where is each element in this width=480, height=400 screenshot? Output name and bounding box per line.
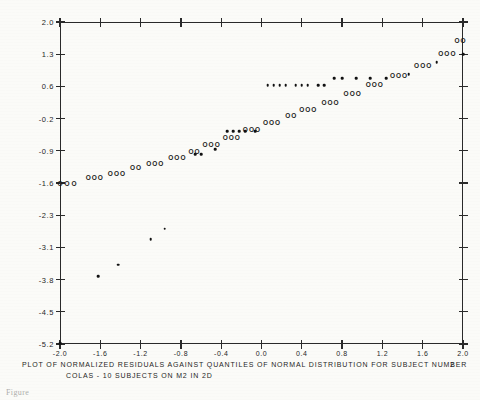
data-point-filled-dot	[97, 275, 100, 278]
y-axis-tick	[56, 311, 65, 312]
y-axis-tick	[56, 118, 65, 119]
data-point-open-circle: O	[444, 51, 449, 58]
x-axis-tick	[382, 340, 383, 349]
data-point-open-circle: O	[130, 165, 135, 172]
data-point-open-circle: O	[72, 181, 77, 188]
data-point-open-circle: O	[414, 62, 419, 69]
data-point-open-circle: O	[334, 99, 339, 106]
data-point-open-circle: O	[229, 135, 234, 142]
y-axis-tick-label: 2.0	[16, 18, 54, 27]
data-point-filled-dot	[272, 84, 275, 87]
data-point-open-circle: O	[378, 82, 383, 89]
figure-caption-subject-number: 2	[450, 361, 454, 368]
data-point-open-circle: O	[327, 99, 332, 106]
y-axis-tick-right	[459, 86, 468, 87]
data-point-open-circle: O	[57, 181, 62, 188]
x-axis-tick	[140, 340, 141, 349]
x-axis-tick-top	[382, 18, 383, 27]
data-point-filled-dot	[117, 264, 120, 267]
x-axis-tick	[301, 340, 302, 349]
data-point-open-circle: O	[426, 62, 431, 69]
data-point-open-circle: O	[311, 106, 316, 113]
scanned-page-background: -2.0-1.6-1.2-0.8-0.40.00.40.81.21.62.0 2…	[0, 0, 480, 400]
y-axis-tick	[56, 21, 65, 22]
data-point-filled-dot	[278, 84, 281, 87]
x-axis-tick-label: 0.4	[296, 350, 308, 357]
data-point-filled-dot	[59, 342, 62, 345]
y-axis-tick-right	[459, 311, 468, 312]
y-axis-tick-label: 0.6	[16, 82, 54, 91]
data-point-open-circle: O	[203, 142, 208, 149]
y-axis-tick-right	[459, 150, 468, 151]
y-axis-tick-label: -0.2	[16, 114, 54, 123]
data-point-open-circle: O	[168, 154, 173, 161]
data-point-open-circle: O	[299, 106, 304, 113]
data-point-filled-dot	[355, 77, 358, 80]
data-point-open-circle: O	[249, 127, 254, 134]
y-axis-tick	[56, 54, 65, 55]
data-point-open-circle: O	[98, 175, 103, 182]
x-axis-tick-label: 0.8	[336, 350, 348, 357]
x-axis-tick-label: -1.2	[133, 350, 147, 357]
data-point-open-circle: O	[344, 91, 349, 98]
data-point-open-circle: O	[114, 171, 119, 178]
y-axis-tick-right	[459, 279, 468, 280]
x-axis-tick-label: -0.4	[214, 350, 228, 357]
y-axis-tick-label: -1.6	[16, 179, 54, 188]
x-axis-tick-label: -0.8	[174, 350, 188, 357]
data-point-filled-dot	[436, 61, 439, 64]
data-point-filled-dot	[317, 84, 320, 87]
data-point-open-circle: O	[158, 160, 163, 167]
data-point-open-circle: O	[263, 120, 268, 127]
x-axis-tick	[422, 340, 423, 349]
data-point-filled-dot	[194, 153, 197, 156]
data-point-open-circle: O	[174, 154, 179, 161]
y-axis-tick-label: 1.3	[16, 50, 54, 59]
y-axis-tick-right	[459, 343, 468, 344]
y-axis-tick-right	[459, 215, 468, 216]
y-axis-tick	[56, 247, 65, 248]
data-point-filled-dot	[385, 77, 388, 80]
data-point-filled-dot	[301, 84, 304, 87]
y-axis-tick-label: -5.2	[16, 340, 54, 349]
data-point-filled-dot	[307, 84, 310, 87]
data-point-filled-dot	[284, 84, 287, 87]
data-point-open-circle: O	[285, 113, 290, 120]
data-point-open-circle: O	[146, 160, 151, 167]
y-axis-tick-right	[459, 21, 468, 22]
data-point-open-circle: O	[291, 113, 296, 120]
data-point-open-circle: O	[366, 82, 371, 89]
data-point-open-circle: O	[460, 38, 465, 45]
data-point-open-circle: O	[396, 73, 401, 80]
data-point-filled-dot	[254, 130, 257, 133]
x-axis-tick	[261, 340, 262, 349]
x-axis-tick	[100, 340, 101, 349]
y-axis-tick	[56, 279, 65, 280]
data-point-filled-dot	[341, 77, 344, 80]
y-axis-tick-label: -0.9	[16, 146, 54, 155]
data-point-open-circle: O	[372, 82, 377, 89]
y-axis-tick-right	[459, 118, 468, 119]
data-point-filled-dot	[333, 77, 336, 80]
figure-caption-line-2: COLAS - 10 SUBJECTS ON M2 IN 2D	[66, 372, 213, 379]
data-point-open-circle: O	[65, 181, 70, 188]
data-point-open-circle: O	[450, 51, 455, 58]
data-point-open-circle: O	[275, 120, 280, 127]
y-axis-tick	[56, 150, 65, 151]
x-axis-tick-top	[261, 18, 262, 27]
data-point-filled-dot	[294, 84, 297, 87]
x-axis-tick-label: -2.0	[53, 350, 67, 357]
data-point-filled-dot	[163, 228, 166, 231]
y-axis-tick	[56, 86, 65, 87]
x-axis-tick-label: 1.6	[417, 350, 429, 357]
y-axis-tick-label: -4.5	[16, 307, 54, 316]
data-point-filled-dot	[226, 130, 229, 133]
data-point-filled-dot	[369, 77, 372, 80]
y-axis-tick	[56, 215, 65, 216]
figure-number-note: Figure	[6, 388, 29, 397]
data-point-filled-dot	[244, 130, 247, 133]
x-axis-tick-top	[140, 18, 141, 27]
data-point-filled-dot	[232, 130, 235, 133]
x-axis-tick-label: 1.2	[377, 350, 389, 357]
data-point-open-circle: O	[454, 38, 459, 45]
